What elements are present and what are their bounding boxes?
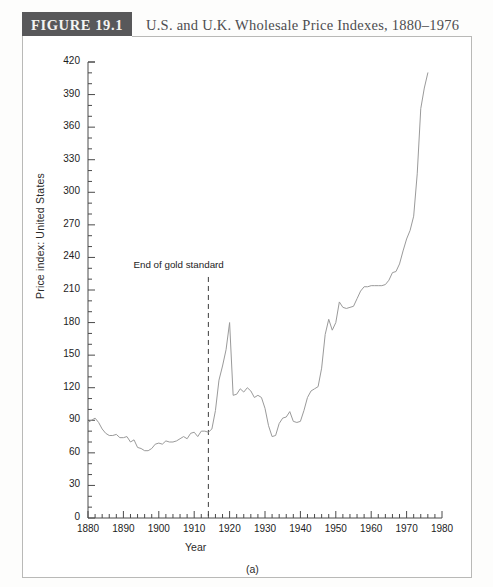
figure-container: FIGURE 19.1 U.S. and U.K. Wholesale Pric… (0, 0, 493, 587)
y-axis-label: Price index: United States (34, 156, 46, 316)
y-axis-tick-label: 360 (50, 120, 80, 131)
figure-frame-top-border (132, 36, 472, 37)
y-axis-tick-label: 240 (50, 250, 80, 261)
x-axis-tick-label: 1920 (210, 523, 250, 534)
y-axis-tick-label: 270 (50, 218, 80, 229)
x-axis-tick-label: 1970 (387, 523, 427, 534)
y-axis-tick-label: 30 (50, 478, 80, 489)
x-axis-tick-label: 1880 (68, 523, 108, 534)
y-axis-tick-label: 180 (50, 316, 80, 327)
figure-header: FIGURE 19.1 U.S. and U.K. Wholesale Pric… (22, 12, 472, 38)
figure-number-badge: FIGURE 19.1 (22, 12, 132, 38)
x-axis-label: Year (185, 541, 206, 553)
x-axis-tick-label: 1890 (103, 523, 143, 534)
y-axis-tick-label: 120 (50, 381, 80, 392)
x-axis-tick-label: 1980 (422, 523, 462, 534)
gold-standard-annotation-label: End of gold standard (133, 259, 223, 270)
y-axis-tick-label: 60 (50, 446, 80, 457)
y-axis-tick-label: 210 (50, 283, 80, 294)
x-axis-tick-label: 1940 (280, 523, 320, 534)
figure-title: U.S. and U.K. Wholesale Price Indexes, 1… (132, 12, 472, 38)
y-axis-tick-label: 330 (50, 153, 80, 164)
y-axis-tick-label: 390 (50, 88, 80, 99)
x-axis-tick-label: 1930 (245, 523, 285, 534)
y-axis-tick-label: 0 (50, 511, 80, 522)
y-axis-tick-label: 300 (50, 185, 80, 196)
y-axis-tick-label: 420 (50, 55, 80, 66)
y-axis-tick-label: 150 (50, 348, 80, 359)
x-axis-tick-label: 1900 (139, 523, 179, 534)
y-axis-tick-label: 90 (50, 413, 80, 424)
figure-frame (22, 36, 472, 578)
panel-caption: (a) (246, 563, 259, 575)
x-axis-tick-label: 1950 (316, 523, 356, 534)
x-axis-tick-label: 1960 (351, 523, 391, 534)
x-axis-tick-label: 1910 (174, 523, 214, 534)
